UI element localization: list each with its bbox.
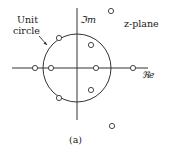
unit-circle-label-line2: circle	[13, 25, 40, 36]
zero-marker	[130, 65, 135, 70]
zero-marker	[88, 87, 93, 92]
figure-caption: (a)	[69, 134, 82, 145]
zero-marker	[32, 65, 37, 70]
imaginary-axis-label: ℑm	[80, 14, 96, 25]
real-axis-label: ℜe	[142, 70, 154, 80]
pole-zero-diagram: Unit circle ℑm z-plane ℜe (a)	[0, 0, 170, 159]
unit-circle-label-line1: Unit	[17, 14, 38, 25]
zero-marker	[56, 95, 61, 100]
plane-label: z-plane	[124, 18, 159, 29]
zero-marker	[48, 65, 53, 70]
zero-marker	[93, 65, 98, 70]
zero-marker	[109, 123, 114, 128]
zero-marker	[108, 8, 113, 13]
zero-marker	[56, 35, 61, 40]
zero-marker	[88, 42, 93, 47]
